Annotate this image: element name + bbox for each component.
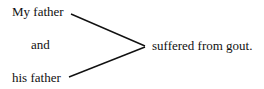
upper-line — [71, 14, 145, 46]
predicate: suffered from gout. — [152, 38, 252, 53]
sentence-diagram: My father and his father suffered from g… — [0, 0, 264, 89]
lower-line — [69, 47, 145, 77]
